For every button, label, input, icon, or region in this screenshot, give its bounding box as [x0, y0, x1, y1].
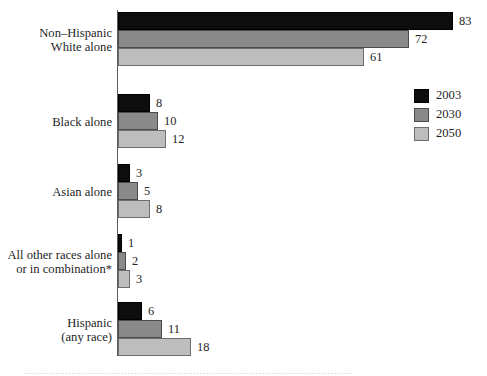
bar-value-label: 18: [197, 339, 209, 356]
legend-label-2030: 2030: [436, 107, 461, 122]
legend-swatch-icon-2030: [414, 108, 429, 122]
bar-value-label: 8: [156, 201, 162, 218]
bar-value-label: 3: [136, 165, 142, 182]
bar-2003: [118, 94, 150, 112]
bar-2003: [118, 234, 122, 252]
chart-legend: 2003 2030 2050: [414, 86, 461, 143]
legend-item-2050: 2050: [414, 124, 461, 143]
bar-2030: [118, 30, 409, 48]
bar-chart: Non–Hispanic White alone 83 72 61 Black …: [0, 0, 487, 376]
bar-value-label: 11: [168, 321, 180, 338]
bar-value-label: 12: [172, 131, 184, 148]
bar-value-label: 10: [164, 113, 176, 130]
legend-item-2030: 2030: [414, 105, 461, 124]
category-label-all-other-races: All other races alone or in combination*: [0, 248, 112, 277]
bar-2030: [118, 252, 126, 270]
bar-2050: [118, 48, 364, 66]
bar-2050: [118, 130, 166, 148]
legend-label-2050: 2050: [436, 126, 461, 141]
category-label-asian-alone: Asian alone: [0, 185, 112, 199]
legend-item-2003: 2003: [414, 86, 461, 105]
category-label-black-alone: Black alone: [0, 115, 112, 129]
footnote-clipped: ……………………………………………………………………………………………: [24, 366, 464, 376]
category-label-hispanic-any-race: Hispanic (any race): [0, 316, 112, 345]
bar-value-label: 61: [370, 49, 382, 66]
bar-2030: [118, 320, 162, 338]
bar-value-label: 8: [156, 95, 162, 112]
bar-value-label: 2: [132, 253, 138, 270]
bar-value-label: 72: [415, 31, 427, 48]
bar-2050: [118, 270, 130, 288]
bar-value-label: 83: [459, 13, 471, 30]
bar-2050: [118, 200, 150, 218]
bar-value-label: 3: [136, 271, 142, 288]
bar-2030: [118, 182, 138, 200]
legend-swatch-icon-2050: [414, 127, 429, 141]
bar-2030: [118, 112, 158, 130]
legend-swatch-icon-2003: [414, 89, 429, 103]
bar-value-label: 6: [148, 303, 154, 320]
legend-label-2003: 2003: [436, 88, 461, 103]
bar-2003: [118, 164, 130, 182]
bar-value-label: 5: [144, 183, 150, 200]
category-label-non-hispanic-white-alone: Non–Hispanic White alone: [0, 26, 112, 55]
bar-value-label: 1: [128, 235, 134, 252]
bar-2050: [118, 338, 191, 356]
bar-2003: [118, 12, 453, 30]
bar-2003: [118, 302, 142, 320]
